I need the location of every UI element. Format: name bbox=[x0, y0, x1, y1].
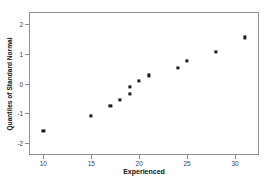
y-axis-tick-label: 1 bbox=[19, 50, 23, 57]
y-axis-tick bbox=[25, 54, 29, 55]
y-axis-tick bbox=[25, 84, 29, 85]
x-axis-tick bbox=[91, 155, 92, 159]
qq-plot-chart: 1015202530 210-1-2 Experienced Quantiles… bbox=[0, 0, 274, 178]
y-axis-tick-label: 0 bbox=[19, 80, 23, 87]
x-axis-tick-label: 20 bbox=[136, 160, 143, 167]
y-axis-tick bbox=[25, 113, 29, 114]
x-axis-tick-label: 25 bbox=[184, 160, 191, 167]
x-axis-tick bbox=[235, 155, 236, 159]
x-axis-tick bbox=[187, 155, 188, 159]
y-axis-label: Quantiles of Standard Normal bbox=[6, 37, 13, 130]
y-axis-tick bbox=[25, 143, 29, 144]
x-axis-tick bbox=[43, 155, 44, 159]
x-axis-tick-label: 30 bbox=[231, 160, 238, 167]
x-axis-tick-label: 15 bbox=[88, 160, 95, 167]
plot-area-frame bbox=[29, 12, 259, 155]
y-axis-tick bbox=[25, 24, 29, 25]
x-axis-label: Experienced bbox=[123, 168, 165, 175]
x-axis-tick bbox=[139, 155, 140, 159]
y-axis-tick-label: 2 bbox=[19, 20, 23, 27]
y-axis-tick-label: -2 bbox=[17, 140, 23, 147]
x-axis-tick-label: 10 bbox=[40, 160, 47, 167]
y-axis-tick-label: -1 bbox=[17, 110, 23, 117]
